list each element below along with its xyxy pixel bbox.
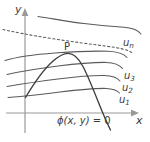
x-axis-label: x <box>136 115 143 126</box>
point-P-label: P <box>64 42 70 52</box>
level-curve-subscript-u3: 3 <box>130 74 135 83</box>
level-curve-label-un: un <box>123 38 134 49</box>
constraint-equals-zero: = 0 <box>90 115 111 126</box>
lagrange-level-curve-figure: y x P un u3 u2 u1 ϕ(x, y) = 0 <box>0 0 150 142</box>
constraint-equation-label: ϕ(x, y) = 0 <box>57 116 111 126</box>
y-axis-arrowhead <box>22 8 29 16</box>
level-curve-label-u1: u1 <box>119 95 130 106</box>
level-curve-unlabeled-top <box>38 17 141 35</box>
level-curve-u3 <box>7 62 123 74</box>
level-curve-subscript-u2: 2 <box>128 86 133 95</box>
level-curve-label-u3: u3 <box>124 71 135 82</box>
level-curve-label-u2: u2 <box>122 83 133 94</box>
level-curve-subscript-u1: 1 <box>125 98 130 107</box>
level-curve-u2 <box>7 76 120 87</box>
level-curve-subscript-un: n <box>129 41 134 50</box>
level-curve-unlabeled-mid <box>5 51 127 60</box>
y-axis-label: y <box>15 4 22 15</box>
constraint-phi-expression: ϕ(x, y) <box>57 115 90 126</box>
